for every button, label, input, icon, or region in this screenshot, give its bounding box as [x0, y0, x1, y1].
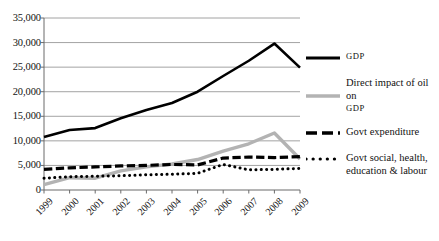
x-axis-tick-label: 2006	[206, 196, 234, 224]
x-axis-tick-label: 2009	[283, 196, 311, 224]
legend-item: Govt expenditure	[306, 125, 439, 141]
legend-swatch-icon	[306, 88, 340, 104]
legend-item-label: Govt expenditure	[346, 125, 419, 138]
legend-swatch-icon	[306, 125, 340, 141]
x-axis-tick-label: 2001	[78, 196, 106, 224]
legend-swatch-icon	[306, 50, 340, 66]
legend-item-label: GDP	[346, 50, 365, 63]
x-axis-labels: 1999200020012002200320042005200620072008…	[0, 190, 310, 241]
chart-legend: GDPDirect impact of oil onGDPGovt expend…	[306, 50, 439, 187]
legend-item-label-line2: GDP	[346, 102, 438, 115]
x-axis-tick-label: 2007	[232, 196, 260, 224]
series-line	[44, 44, 300, 137]
legend-item: Direct impact of oil onGDP	[306, 76, 439, 115]
legend-item-label-line2: education & labour	[346, 164, 428, 177]
series-lines	[44, 44, 300, 185]
x-axis-tick-label: 2003	[129, 196, 157, 224]
chart-container: 05,00010,00015,00020,00025,00030,00035,0…	[0, 0, 439, 241]
x-axis-tick-label: 1999	[27, 196, 55, 224]
legend-item-label: Direct impact of oil onGDP	[346, 76, 438, 115]
x-axis-tick-label: 2005	[180, 196, 208, 224]
legend-item: Govt social, health,education & labour	[306, 151, 439, 177]
axis-lines	[41, 18, 301, 194]
legend-item-label: Govt social, health,education & labour	[346, 151, 428, 177]
gridlines	[44, 18, 300, 165]
legend-swatch-icon	[306, 151, 340, 167]
x-axis-tick-label: 2008	[257, 196, 285, 224]
x-axis-tick-label: 2000	[52, 196, 80, 224]
x-axis-tick-label: 2004	[155, 196, 183, 224]
legend-item: GDP	[306, 50, 439, 66]
x-axis-tick-label: 2002	[104, 196, 132, 224]
